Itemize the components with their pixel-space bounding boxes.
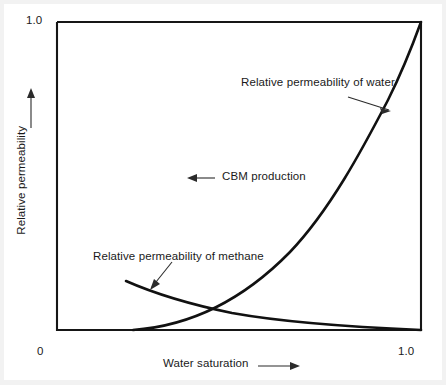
y-axis-tick-top: 1.0 — [26, 14, 42, 27]
up-arrow-icon — [27, 88, 35, 128]
y-axis-title: Relative permeability — [15, 115, 28, 245]
chart-plot-area — [0, 0, 446, 385]
right-arrow-icon — [258, 362, 300, 370]
annotation-label-cbm-production: CBM production — [222, 170, 306, 183]
annotation-label-water: Relative permeability of water — [241, 76, 395, 89]
annotation-arrow-methane — [150, 262, 172, 290]
figure-canvas: 1.0 0 1.0 Water saturation Relative perm… — [0, 0, 446, 385]
annotation-label-methane: Relative permeability of methane — [93, 250, 264, 263]
x-axis-tick-one: 1.0 — [398, 345, 414, 358]
annotation-arrow-cbm-production — [187, 174, 215, 182]
x-axis-title: Water saturation — [163, 357, 249, 370]
curve-relative-permeability-methane — [126, 281, 421, 330]
x-axis-tick-zero: 0 — [37, 345, 44, 358]
